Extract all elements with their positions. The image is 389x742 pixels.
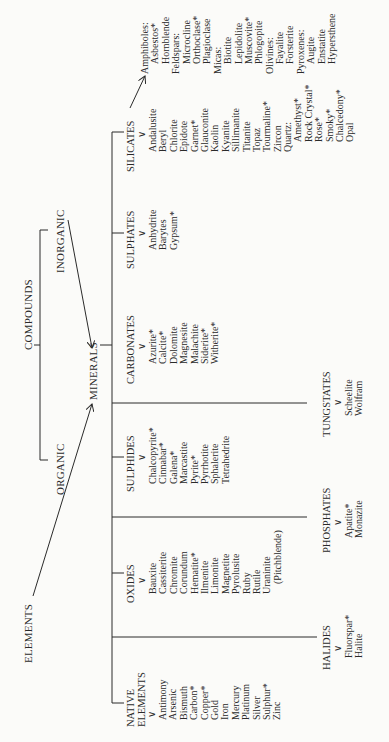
- down-arrow-icon: ∨: [333, 399, 343, 406]
- list-item: Witherite*: [210, 322, 220, 364]
- down-arrow-icon: ∨: [333, 519, 343, 526]
- carbonates-label: CARBONATES: [126, 315, 137, 384]
- carbonates-list: Azurite*Calcite*DolomiteMagnesiteMalachi…: [148, 322, 221, 364]
- oxides-label: OXIDES: [126, 565, 137, 604]
- list-item: Marcastite: [179, 427, 189, 484]
- list-item: Platinum: [241, 679, 251, 720]
- list-item: Sillimanite: [231, 85, 241, 153]
- list-item: Monazite: [354, 500, 364, 538]
- compounds-label: COMPOUNDS: [23, 279, 34, 350]
- list-item: Biotite: [223, 13, 233, 74]
- elements-sublabel: ELEMENTS: [137, 672, 148, 727]
- down-arrow-icon: ∨: [137, 230, 147, 237]
- list-item: Wolfram: [354, 379, 364, 416]
- list-item: Opal: [345, 85, 355, 153]
- oxides-list: BauxiteCassiteriteChromiteCorundumHemati…: [148, 530, 283, 594]
- down-arrow-icon: ∨: [137, 454, 147, 461]
- native-label: NATIVE: [126, 672, 137, 727]
- halides-label: HALIDES: [322, 625, 333, 670]
- halides-list: Fluorspar*Halite: [344, 615, 365, 658]
- down-arrow-icon: ∨: [137, 343, 147, 350]
- down-arrow-icon: ∨: [137, 577, 147, 584]
- tungstates-label: TUNGSTATES: [322, 371, 333, 437]
- sulphides-label: SULPHIDES: [126, 435, 137, 492]
- elements-label: ELEMENTS: [23, 604, 34, 663]
- list-item: Corundum: [179, 530, 189, 594]
- list-item: Pyrolusite: [231, 530, 241, 594]
- list-item: Gypsum*: [169, 209, 179, 250]
- down-arrow-icon: ∨: [333, 645, 343, 652]
- native-elements-label: NATIVE ELEMENTS: [126, 672, 147, 727]
- silicates-label: SILICATES: [126, 121, 137, 172]
- native-elements-list: AntimonyArsenicBismuthCarbon*Copper*Gold…: [158, 679, 283, 720]
- list-item: Tetrahedrite: [221, 427, 231, 484]
- list-item: Feldspars:: [171, 13, 181, 74]
- down-arrow-icon: ∨: [147, 711, 157, 718]
- list-item: Hypersthene: [327, 13, 337, 74]
- sulphides-list: Chalcopyrite*Cinnabar*Galena*MarcastiteP…: [148, 427, 231, 484]
- list-item: Magnesite: [179, 322, 189, 364]
- list-item: Epidote: [179, 85, 189, 153]
- list-item: Carbon*: [189, 679, 199, 720]
- inorganic-label: INORGANIC: [55, 209, 66, 273]
- list-item: (Pitchblende): [273, 530, 283, 594]
- mineral-classification-diagram: ELEMENTS COMPOUNDS ORGANIC INORGANIC MIN…: [0, 0, 389, 742]
- phosphates-label: PHOSPHATES: [322, 488, 333, 553]
- list-item: Halite: [354, 615, 364, 658]
- down-arrow-icon: ∨: [137, 131, 147, 138]
- phosphates-list: Apatite*Monazite: [344, 500, 365, 538]
- sulphates-list: AnhydriteBarytesGypsum*: [148, 209, 179, 250]
- tungstates-list: ScheeliteWolfram: [344, 379, 365, 416]
- sulphates-label: SULPHATES: [126, 211, 137, 269]
- silicates-list: AndalusiteBerylChloriteEpidoteGarnet*Gla…: [148, 85, 356, 153]
- list-item: Zinc: [272, 679, 282, 720]
- silicate-groups-list: Amphiboles:Asbestos*HornblendeFeldspars:…: [140, 13, 337, 74]
- organic-label: ORGANIC: [55, 443, 66, 495]
- minerals-label: MINERALS: [88, 342, 99, 400]
